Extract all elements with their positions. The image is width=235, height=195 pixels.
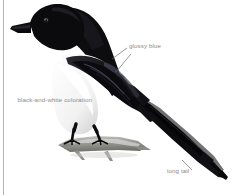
callout-glossy-blue: glossy blue [129, 42, 161, 50]
magpie-figure: glossy blue black-and-white coloration l… [0, 0, 235, 195]
leader-glossy-blue-2 [116, 54, 131, 72]
callout-black-and-white-coloration: black-and-white coloration [16, 96, 92, 104]
head [10, 4, 84, 50]
leader-glossy-blue [112, 48, 127, 59]
ground-shadow [70, 152, 138, 158]
callout-long-tail: long tail [167, 167, 189, 175]
